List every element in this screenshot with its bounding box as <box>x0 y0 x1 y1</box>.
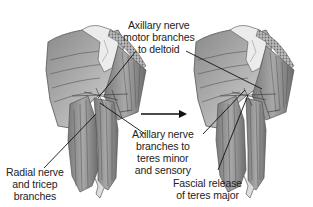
diagram-stage: Axillary nerve motor branches to deltoid… <box>0 0 313 207</box>
transition-arrow-icon <box>141 110 187 118</box>
right-shoulder-illustration <box>194 26 294 199</box>
label-line: to deltoid <box>123 43 195 55</box>
label-line: teres minor <box>132 152 194 164</box>
label-line: branches <box>6 190 64 202</box>
label-line: Axillary nerve <box>123 19 195 31</box>
label-line: branches to <box>132 140 194 152</box>
label-axillary-motor-branches: Axillary nerve motor branches to deltoid <box>123 19 195 55</box>
label-line: of teres major <box>173 189 242 201</box>
label-line: Axillary nerve <box>132 128 194 140</box>
label-axillary-teres-branches: Axillary nerve branches to teres minor a… <box>132 128 194 176</box>
label-line: Fascial release <box>173 177 242 189</box>
label-line: and tricep <box>6 178 64 190</box>
label-line: motor branches <box>123 31 195 43</box>
label-line: Radial nerve <box>6 166 64 178</box>
label-fascial-release: Fascial release of teres major <box>173 177 242 201</box>
label-line: and sensory <box>132 164 194 176</box>
label-radial-nerve: Radial nerve and tricep branches <box>6 166 64 202</box>
